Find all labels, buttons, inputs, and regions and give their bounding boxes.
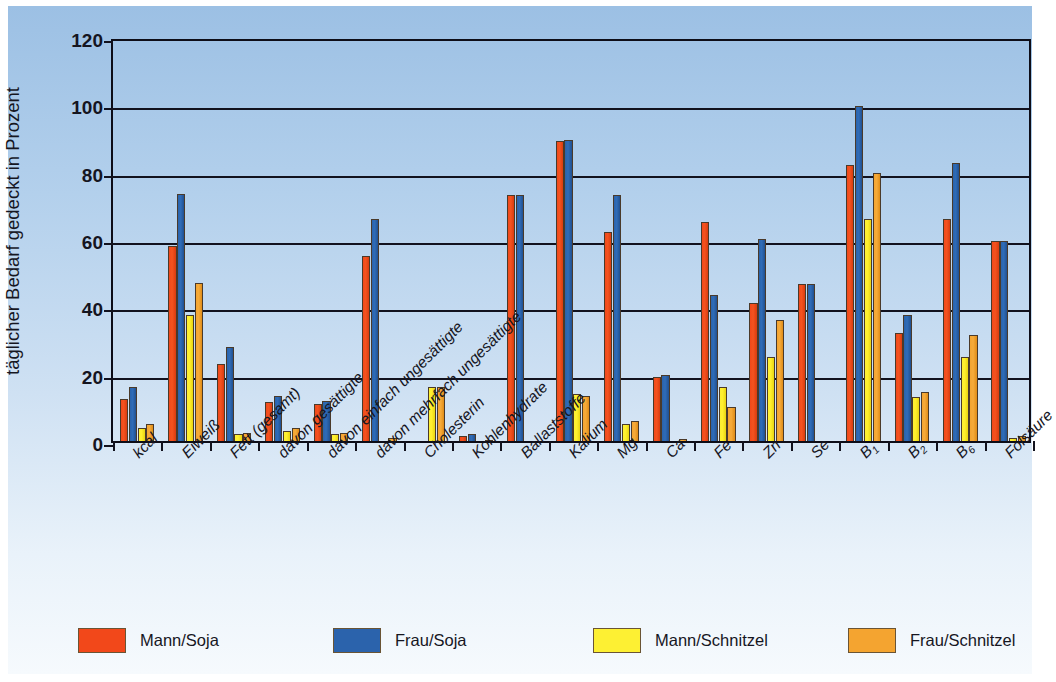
bar-group [846,41,881,441]
legend-label: Frau/Soja [395,631,467,650]
x-tick-mark [1033,441,1035,451]
bar [120,399,128,441]
bar [701,222,709,441]
bar [864,219,872,441]
y-tick-label: 60 [41,232,103,254]
bar-group [798,41,833,441]
y-axis-title: täglicher Bedarf gedeckt in Prozent [2,66,24,396]
bar [758,239,766,441]
y-tick-mark [104,108,113,110]
x-axis-category-labels: kcalEiweißFett (gesamt)davon gesättigted… [111,443,1031,583]
bar [613,195,621,441]
legend-label: Mann/Schnitzel [655,631,768,650]
bar-group [895,41,930,441]
y-tick-mark [104,41,113,43]
bar [468,434,476,441]
legend-item[interactable]: Mann/Schnitzel [593,628,768,653]
bar [226,347,234,441]
bar [177,194,185,441]
legend-item[interactable]: Frau/Schnitzel [848,628,1015,653]
bar [195,283,203,441]
bar [952,163,960,441]
bar [921,392,929,441]
bar [661,375,669,441]
bar [556,141,564,441]
bar [727,407,735,441]
bar-group [653,41,688,441]
bar-group [556,41,591,441]
bar-group [943,41,978,441]
chart-legend: Mann/SojaFrau/SojaMann/SchnitzelFrau/Sch… [38,628,1028,668]
legend-label: Frau/Schnitzel [910,631,1015,650]
bar [604,232,612,441]
y-tick-mark [104,176,113,178]
bar [961,357,969,441]
y-tick-label: 100 [41,97,103,119]
legend-swatch [848,628,896,653]
legend-swatch [78,628,126,653]
bar-group [120,41,155,441]
bar [168,246,176,441]
bar [798,284,806,441]
bar-group [991,41,1026,441]
bar-group [168,41,203,441]
plot-area: 020406080100120 [111,39,1031,443]
legend-swatch [593,628,641,653]
bar [129,387,137,441]
bar [969,335,977,441]
bar [855,106,863,441]
y-tick-mark [104,310,113,312]
y-tick-label: 120 [41,30,103,52]
bar [653,377,661,441]
bar-group [265,41,300,441]
y-tick-label: 20 [41,367,103,389]
bar [767,357,775,441]
bar-group [604,41,639,441]
y-tick-label: 40 [41,299,103,321]
bar-group [749,41,784,441]
bar [749,303,757,441]
bar [846,165,854,441]
bar [459,436,467,441]
legend-item[interactable]: Mann/Soja [78,628,219,653]
bar [776,320,784,441]
legend-swatch [333,628,381,653]
bar-group [217,41,252,441]
y-tick-mark [104,378,113,380]
chart-panel-background: täglicher Bedarf gedeckt in Prozent 0204… [8,6,1032,674]
bar [873,173,881,441]
legend-label: Mann/Soja [140,631,219,650]
bar [903,315,911,441]
bar [895,333,903,441]
bar [991,241,999,441]
y-tick-mark [104,243,113,245]
y-tick-label: 80 [41,165,103,187]
bar [912,397,920,441]
legend-item[interactable]: Frau/Soja [333,628,467,653]
bar [1000,241,1008,441]
bar [186,315,194,441]
bar [719,387,727,441]
bar-group [701,41,736,441]
y-tick-label: 0 [41,434,103,456]
bar [710,295,718,441]
bar [943,219,951,441]
bar [807,284,815,441]
